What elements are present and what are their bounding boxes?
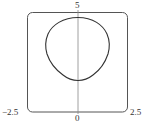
y-min-label: 0 — [75, 114, 80, 123]
viewing-window-frame — [28, 13, 128, 113]
x-max-label: 2.5 — [130, 108, 141, 117]
plot-canvas — [0, 0, 142, 123]
x-min-label: −2.5 — [2, 108, 18, 117]
y-max-label: 5 — [75, 1, 80, 10]
curve — [46, 18, 110, 81]
